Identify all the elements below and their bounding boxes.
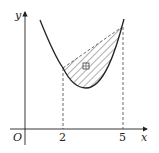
x-tick-5: 5: [119, 131, 126, 144]
y-axis-label: y: [14, 9, 22, 22]
hatched-region: [60, 20, 126, 92]
function-diagram: y x O 2 5: [0, 0, 159, 153]
x-tick-2: 2: [59, 131, 66, 144]
origin-label: O: [13, 131, 22, 144]
x-axis-label: x: [141, 131, 148, 144]
